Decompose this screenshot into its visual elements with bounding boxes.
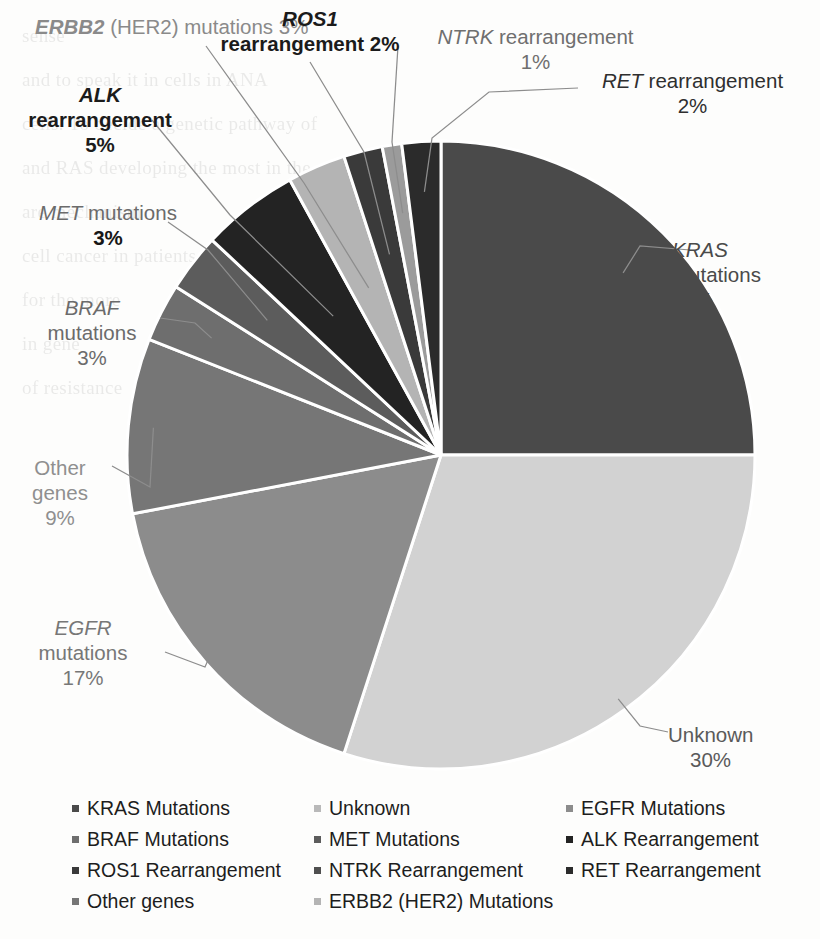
legend-item-label: Other genes	[87, 890, 194, 912]
legend-swatch-icon	[566, 867, 573, 874]
legend-swatch-icon	[314, 836, 321, 843]
legend-swatch-icon	[314, 805, 321, 812]
callout-percent-met: 3%	[18, 225, 198, 250]
callout-kras: KRAS mutations 25%	[672, 237, 817, 312]
callout-rest-egfr: mutations	[8, 640, 158, 665]
legend-item-label: NTRK Rearrangement	[329, 859, 523, 881]
callout-egfr: EGFR mutations 17%	[8, 615, 158, 690]
legend-item-label: RET Rearrangement	[581, 859, 761, 881]
callout-gene-ntrk: NTRK	[438, 25, 494, 48]
callout-rest-alk: rearrangement	[10, 107, 190, 132]
legend-swatch-icon	[72, 898, 79, 905]
legend-item[interactable]: Other genes	[72, 890, 314, 912]
legend-swatch-icon	[314, 867, 321, 874]
callout-rest-ret: rearrangement	[649, 69, 783, 92]
callout-ret: RET rearrangement 2%	[570, 68, 815, 118]
callout-ros1: ROS1 rearrangement 2%	[210, 6, 410, 56]
legend-item[interactable]: ROS1 Rearrangement	[72, 859, 314, 881]
callout-rest-braf: mutations	[12, 320, 172, 345]
legend-item-label: ALK Rearrangement	[581, 828, 759, 850]
callout-other-line2: genes	[6, 480, 114, 505]
legend-item[interactable]: ALK Rearrangement	[566, 828, 772, 850]
legend-item[interactable]: NTRK Rearrangement	[314, 859, 566, 881]
callout-rest-kras: mutations	[672, 262, 817, 287]
callout-braf: BRAF mutations 3%	[12, 295, 172, 370]
legend-item-label: KRAS Mutations	[87, 797, 230, 819]
callout-met: MET mutations 3%	[18, 200, 198, 250]
callout-rest-ntrk: rearrangement	[499, 25, 633, 48]
legend-item-label: MET Mutations	[329, 828, 460, 850]
legend-swatch-icon	[72, 805, 79, 812]
callout-percent-braf: 3%	[12, 345, 172, 370]
legend-item-label: Unknown	[329, 797, 410, 819]
legend-item-label: ERBB2 (HER2) Mutations	[329, 890, 553, 912]
legend-item-label: BRAF Mutations	[87, 828, 229, 850]
pie-chart-figure: ERBB2 (HER2) mutations 3% ROS1 rearrange…	[0, 0, 820, 939]
legend-swatch-icon	[72, 836, 79, 843]
callout-other-genes: Other genes 9%	[6, 455, 114, 530]
callout-gene-alk: ALK	[79, 83, 121, 106]
legend-item-label: EGFR Mutations	[581, 797, 725, 819]
callout-gene-egfr: EGFR	[55, 616, 112, 639]
callout-other-line1: Other	[6, 455, 114, 480]
legend-item[interactable]: MET Mutations	[314, 828, 566, 850]
callout-gene-met: MET	[39, 201, 82, 224]
legend-item[interactable]: KRAS Mutations	[72, 797, 314, 819]
legend-item[interactable]: BRAF Mutations	[72, 828, 314, 850]
legend-item[interactable]: EGFR Mutations	[566, 797, 772, 819]
legend-item[interactable]: ERBB2 (HER2) Mutations	[314, 890, 566, 912]
legend-item[interactable]: Unknown	[314, 797, 566, 819]
pie-slice-group[interactable]	[127, 141, 755, 769]
callout-ntrk: NTRK rearrangement 1%	[408, 24, 663, 74]
callout-percent-alk: 5%	[10, 132, 190, 157]
legend-swatch-icon	[566, 805, 573, 812]
callout-gene-kras: KRAS	[672, 238, 728, 261]
legend-item[interactable]: RET Rearrangement	[566, 859, 772, 881]
callout-percent-ros1: 2%	[370, 32, 400, 55]
callout-gene-erbb2: ERBB2	[35, 15, 105, 38]
callout-gene-ros1: ROS1	[282, 7, 338, 30]
callout-percent-egfr: 17%	[8, 665, 158, 690]
legend-swatch-icon	[72, 867, 79, 874]
callout-unknown: Unknown 30%	[668, 722, 818, 772]
legend-item-label: ROS1 Rearrangement	[87, 859, 281, 881]
chart-legend: KRAS MutationsUnknownEGFR MutationsBRAF …	[72, 792, 772, 916]
callout-gene-braf: BRAF	[65, 296, 120, 319]
legend-swatch-icon	[314, 898, 321, 905]
callout-percent-other: 9%	[6, 505, 114, 530]
callout-gene-ret: RET	[602, 69, 643, 92]
callout-percent-unknown: 30%	[668, 747, 818, 772]
callout-alk: ALK rearrangement 5%	[10, 82, 190, 157]
legend-swatch-icon	[566, 836, 573, 843]
callout-rest-unknown: Unknown	[668, 722, 818, 747]
callout-percent-ret: 2%	[570, 93, 815, 118]
callout-percent-kras: 25%	[672, 287, 817, 312]
callout-rest-met: mutations	[88, 201, 177, 224]
callout-rest-ros1: rearrangement	[221, 32, 365, 55]
